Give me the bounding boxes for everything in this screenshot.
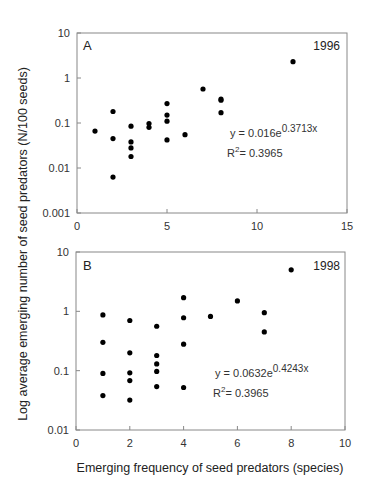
y-tick-label: 1 (64, 72, 70, 84)
y-tick-label: 0.1 (54, 365, 69, 377)
data-point (154, 361, 159, 366)
y-tick-label: 10 (57, 246, 69, 258)
data-point (92, 129, 97, 134)
data-point (262, 329, 267, 334)
panel-a-chart: 1010.10.010.001 051015 A 1996 y = 0.016e… (42, 27, 353, 232)
data-point (128, 145, 133, 150)
panel-b-x-ticks: 0246810 (73, 426, 351, 449)
panel-b-chart: 1010.10.01 0246810 B 1998 y = 0.0632e0.4… (48, 246, 352, 449)
x-tick-label: 10 (251, 220, 263, 232)
data-point (110, 109, 115, 114)
x-tick-label: 0 (73, 437, 79, 449)
data-point (154, 353, 159, 358)
data-point (100, 371, 105, 376)
panel-b-y-ticks: 1010.10.01 (48, 246, 80, 436)
data-point (164, 101, 169, 106)
data-point (182, 132, 187, 137)
data-point (218, 98, 223, 103)
y-tick-label: 1 (63, 305, 69, 317)
data-point (235, 298, 240, 303)
data-point (164, 112, 169, 117)
x-tick-label: 15 (341, 220, 353, 232)
data-point (154, 384, 159, 389)
panel-b-letter: B (83, 258, 92, 273)
x-tick-label: 5 (164, 220, 170, 232)
data-point (208, 314, 213, 319)
panel-b-r-squared: R2= 0.3965 (213, 385, 269, 399)
x-axis-title: Emerging frequency of seed predators (sp… (77, 461, 344, 475)
panel-b-frame (76, 252, 345, 430)
data-point (110, 136, 115, 141)
data-point (146, 125, 151, 130)
y-tick-label: 0.01 (48, 424, 69, 436)
data-point (128, 154, 133, 159)
y-tick-label: 10 (58, 27, 70, 39)
data-point (181, 385, 186, 390)
data-point (164, 137, 169, 142)
x-tick-label: 4 (181, 437, 187, 449)
data-point (127, 397, 132, 402)
y-tick-label: 0.001 (42, 207, 70, 219)
data-point (127, 318, 132, 323)
panel-a-x-ticks: 051015 (74, 209, 353, 232)
panel-a-data-points (92, 59, 295, 180)
data-point (110, 174, 115, 179)
data-point (289, 267, 294, 272)
data-point (218, 110, 223, 115)
data-point (154, 369, 159, 374)
panel-a-equation: y = 0.016e0.3713x (230, 123, 317, 139)
panel-a-r-squared: R2= 0.3965 (227, 145, 283, 159)
panel-a-year: 1996 (313, 39, 340, 53)
scatter-figure: Log average emerging number of seed pred… (0, 0, 373, 496)
data-point (100, 393, 105, 398)
data-point (262, 310, 267, 315)
x-tick-label: 10 (339, 437, 351, 449)
panel-b-year: 1998 (313, 259, 340, 273)
y-tick-label: 0.01 (49, 162, 70, 174)
data-point (154, 324, 159, 329)
x-tick-label: 2 (127, 437, 133, 449)
x-tick-label: 8 (288, 437, 294, 449)
x-tick-label: 0 (74, 220, 80, 232)
panel-b-data-points (100, 267, 294, 402)
data-point (127, 370, 132, 375)
data-point (128, 139, 133, 144)
data-point (128, 124, 133, 129)
data-point (100, 312, 105, 317)
data-point (290, 59, 295, 64)
data-point (181, 342, 186, 347)
data-point (164, 119, 169, 124)
data-point (127, 378, 132, 383)
panel-a-letter: A (83, 38, 92, 53)
panel-a-y-ticks: 1010.10.010.001 (42, 27, 81, 219)
data-point (127, 350, 132, 355)
x-tick-label: 6 (234, 437, 240, 449)
data-point (181, 295, 186, 300)
y-tick-label: 0.1 (55, 117, 70, 129)
data-point (181, 315, 186, 320)
panel-b-equation: y = 0.0632e0.4243x (215, 363, 308, 379)
data-point (200, 86, 205, 91)
y-axis-title: Log average emerging number of seed pred… (16, 67, 30, 421)
data-point (100, 340, 105, 345)
